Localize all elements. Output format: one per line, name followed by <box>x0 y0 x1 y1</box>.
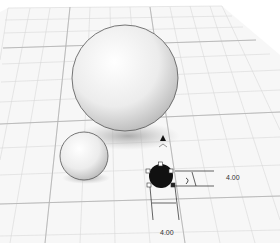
workplane-viewport[interactable] <box>0 0 280 243</box>
handle-right[interactable] <box>169 169 173 173</box>
depth-dimension-label[interactable]: 4.00 <box>226 174 240 181</box>
handle-bottom-left[interactable] <box>147 183 151 187</box>
handle-bottom-right[interactable] <box>171 183 175 187</box>
large-sphere[interactable] <box>72 25 178 131</box>
small-sphere[interactable] <box>60 132 108 180</box>
selected-sphere[interactable] <box>149 164 173 188</box>
width-dimension-label[interactable]: 4.00 <box>160 229 174 236</box>
handle-top[interactable] <box>159 162 163 166</box>
handle-center[interactable] <box>161 185 164 188</box>
handle-left[interactable] <box>146 169 150 173</box>
